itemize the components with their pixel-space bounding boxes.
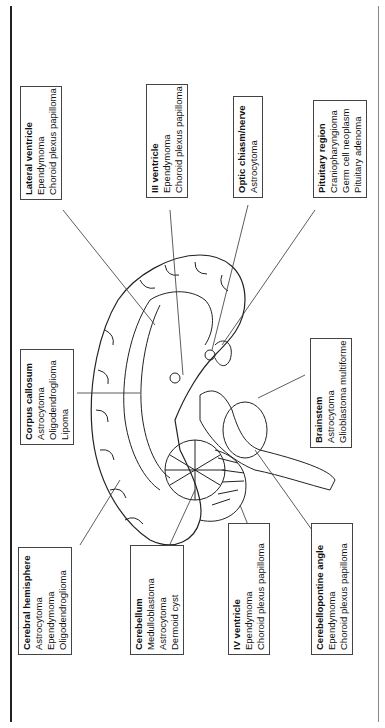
label-iii-ventricle: III ventricle Ependymoma Choroid plexus … bbox=[146, 84, 188, 198]
label-optic-chiasm: Optic chiasm/nerve Astrocytoma bbox=[233, 96, 263, 198]
label-corpus-callosum: Corpus callosum Astrocytoma Oligodendrog… bbox=[20, 349, 74, 445]
label-pituitary-region: Pituitary region Craniopharyngioma Germ … bbox=[313, 100, 367, 198]
label-cerebral-hemisphere: Cerebral hemisphere Astrocytoma Ependymo… bbox=[18, 547, 72, 655]
label-cerebellopontine-angle: Cerebellopontine angle Ependymoma Choroi… bbox=[311, 523, 353, 655]
label-iv-ventricle: IV ventricle Ependymoma Choroid plexus p… bbox=[228, 523, 270, 655]
label-cerebellum: Cerebellum Medulloblastoma Astrocytoma D… bbox=[130, 545, 184, 655]
label-lateral-ventricle: Lateral ventricle Ependymoma Choroid ple… bbox=[20, 86, 62, 200]
label-brainstem: Brainstem Astrocytoma Glioblastoma multi… bbox=[310, 338, 352, 448]
